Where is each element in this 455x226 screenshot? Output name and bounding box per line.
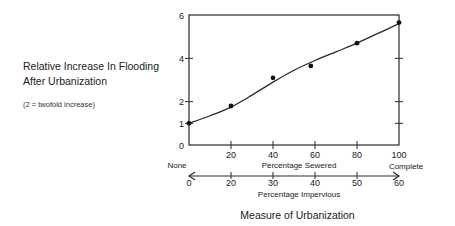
y-tick-label: 6: [179, 11, 184, 21]
impervious-tick-label: 20: [226, 178, 236, 188]
y-tick-label: 1: [179, 119, 184, 129]
y-tick-label: 2: [179, 97, 184, 107]
y-tick-label: 0: [179, 141, 184, 151]
impervious-tick-label: 0: [186, 178, 191, 188]
x-tick-label: 60: [310, 150, 320, 160]
impervious-tick-label: 50: [352, 178, 362, 188]
data-point: [271, 75, 276, 80]
x-axis-end-label: Complete: [389, 162, 424, 171]
data-point: [187, 121, 192, 126]
data-point: [308, 64, 313, 69]
impervious-tick-label: 30: [268, 178, 278, 188]
x-axis-label-sewered: Percentage Sewered: [262, 161, 337, 170]
data-point: [397, 20, 402, 25]
data-point: [355, 41, 360, 46]
chart-canvas: 0124620406080100NonePercentage SeweredCo…: [0, 0, 455, 226]
fitted-curve-line: [189, 24, 399, 124]
plot-frame: [189, 15, 399, 145]
x-tick-label: 20: [226, 150, 236, 160]
x-axis-title: Measure of Urbanization: [0, 209, 455, 221]
data-point: [229, 104, 234, 109]
x-tick-label: 80: [352, 150, 362, 160]
y-tick-label: 4: [179, 54, 184, 64]
impervious-tick-label: 60: [394, 178, 404, 188]
impervious-tick-label: 40: [310, 178, 320, 188]
x-tick-label: 100: [391, 150, 406, 160]
x-axis-label-impervious: Percentage Impervious: [258, 190, 340, 199]
x-tick-label: 40: [268, 150, 278, 160]
x-axis-start-label: None: [167, 161, 187, 170]
